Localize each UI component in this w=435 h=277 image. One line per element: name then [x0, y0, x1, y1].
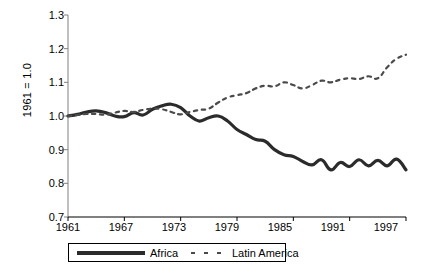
series-line-latin-america	[68, 55, 406, 116]
data-series-layer	[68, 55, 406, 170]
legend-label-latin-america: Latin America	[232, 247, 299, 259]
x-axis-ticks	[68, 217, 406, 221]
series-line-africa	[68, 104, 406, 170]
legend-label-africa: Africa	[150, 247, 178, 259]
legend: Africa Latin America	[68, 243, 286, 262]
chart-container: 1961 = 1.0 1.3 1.2 1.1 1.0 0.9 0.8 0.7 1…	[0, 0, 435, 277]
plot-area	[0, 0, 435, 277]
